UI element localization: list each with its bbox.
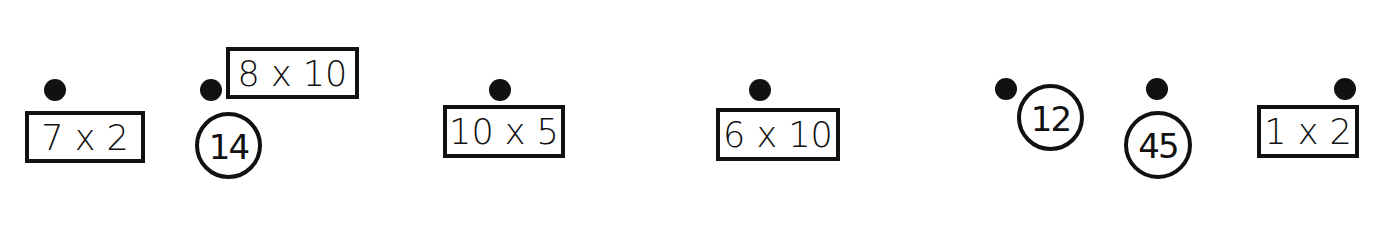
answer-label: 12: [1031, 100, 1070, 136]
expression-box-8x10: 8 x 10: [226, 47, 359, 99]
expression-box-1x2: 1 x 2: [1257, 105, 1359, 158]
dot-1: [44, 79, 66, 101]
expression-label: 8 x 10: [238, 55, 348, 92]
answer-label: 45: [1138, 127, 1177, 163]
answer-circle-45: 45: [1124, 111, 1192, 179]
answer-circle-14: 14: [195, 112, 262, 179]
expression-label: 10 x 5: [449, 113, 559, 150]
expression-box-7x2: 7 x 2: [25, 111, 145, 163]
dot-3: [489, 79, 511, 101]
dot-6: [1146, 78, 1168, 100]
dot-5: [995, 78, 1017, 100]
expression-label: 7 x 2: [41, 119, 129, 156]
dot-7: [1334, 78, 1356, 100]
answer-label: 14: [209, 128, 248, 164]
expression-label: 1 x 2: [1264, 113, 1352, 150]
expression-box-6x10: 6 x 10: [716, 108, 840, 161]
expression-box-10x5: 10 x 5: [443, 105, 565, 158]
expression-label: 6 x 10: [723, 116, 833, 153]
answer-circle-12: 12: [1017, 84, 1084, 151]
dot-2: [200, 79, 222, 101]
dot-4: [749, 79, 771, 101]
